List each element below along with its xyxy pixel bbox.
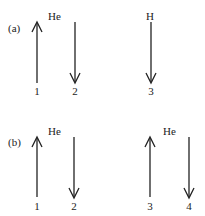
atom-label: He	[48, 11, 61, 22]
atom-label: He	[48, 126, 61, 137]
electron-number: 3	[145, 86, 157, 97]
arrow-down-icon	[69, 137, 79, 198]
arrow-up-icon	[145, 137, 155, 197]
electron-number: 2	[69, 86, 81, 97]
atom-label: He	[163, 126, 176, 137]
atom-label: H	[146, 11, 154, 22]
panel-b-arrows	[32, 137, 194, 198]
arrow-up-icon	[32, 22, 42, 83]
arrow-up-icon	[32, 137, 42, 197]
arrow-down-icon	[184, 137, 194, 198]
electron-number: 1	[31, 86, 43, 97]
electron-number: 3	[144, 201, 156, 212]
electron-number: 1	[31, 201, 43, 212]
electron-number: 2	[68, 201, 80, 212]
arrow-down-icon	[70, 22, 80, 83]
arrow-down-icon	[146, 22, 156, 83]
spin-diagram	[0, 0, 205, 216]
panel-label: (a)	[8, 23, 20, 34]
panel-a-arrows	[32, 22, 156, 83]
panel-label: (b)	[8, 137, 21, 148]
electron-number: 4	[183, 201, 195, 212]
